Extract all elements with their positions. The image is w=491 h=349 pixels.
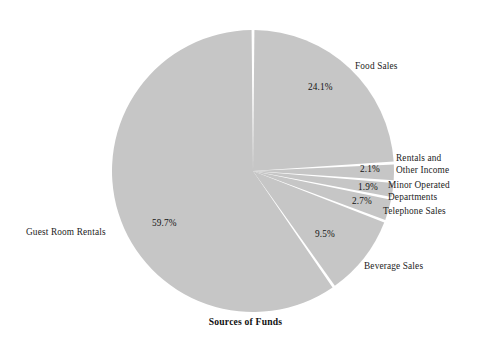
slice-label-food-sales: Food Sales (355, 61, 398, 73)
slice-label-guest-room-rentals: Guest Room Rentals (26, 227, 106, 239)
slice-label-beverage-sales: Beverage Sales (364, 261, 423, 273)
pie-slice-group (112, 30, 394, 312)
slice-label-minor-operated-departments: Minor OperatedDepartments (388, 180, 480, 203)
chart-title: Sources of Funds (0, 316, 491, 327)
pie-slice-food-sales (253, 30, 394, 171)
slice-percent-guest-room-rentals: 59.7% (152, 218, 177, 229)
pie-chart: Food Sales 24.1% Rentals andOther Income… (0, 0, 491, 349)
slice-percent-minor-operated-departments: 1.9% (358, 182, 378, 193)
slice-label-line1: Rentals and (396, 153, 441, 163)
slice-label-line2: Departments (388, 192, 437, 202)
slice-label-line1: Minor Operated (388, 180, 450, 190)
slice-percent-telephone-sales: 2.7% (352, 196, 372, 207)
slice-percent-food-sales: 24.1% (308, 82, 333, 93)
slice-percent-rentals-and-other-income: 2.1% (360, 164, 380, 175)
slice-label-telephone-sales: Telephone Sales (383, 206, 446, 218)
slice-label-rentals-and-other-income: Rentals andOther Income (396, 153, 488, 176)
slice-label-line2: Other Income (396, 165, 449, 175)
slice-percent-beverage-sales: 9.5% (315, 229, 335, 240)
